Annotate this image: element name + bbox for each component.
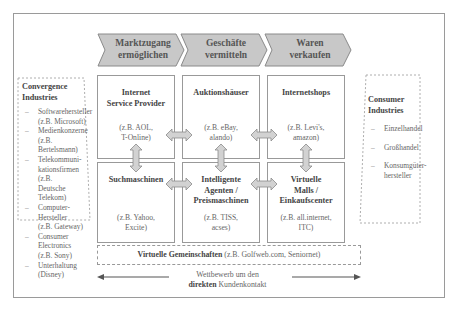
chevron-step-3: Warenverkaufen — [264, 33, 352, 67]
cell-title: Service Provider — [98, 99, 174, 110]
cell-title: Virtuelle — [268, 175, 344, 186]
cell-example: amazon) — [268, 133, 344, 143]
step-line2: verkaufen — [272, 49, 348, 61]
step-line1: Marktzugang — [105, 37, 181, 49]
cell-title: Einkaufscenter — [268, 196, 344, 207]
convergence-industries-panel: ConvergenceIndustries Softwarehersteller… — [22, 82, 90, 280]
competition-line1: Wettbewerb um den — [160, 270, 295, 280]
cell-suchmaschinen: Suchmaschinen (z.B. Yahoo,Excite) — [97, 162, 175, 243]
cell-example: (z.B. Yahoo, — [98, 213, 174, 223]
cell-virtuelle-malls: VirtuelleMalls /Einkaufscenter (z.B. all… — [267, 162, 345, 243]
cell-title: Preismaschinen — [183, 196, 259, 207]
double-arrow-horizontal-icon — [165, 177, 193, 191]
cell-example: (z.B. all.internet, — [268, 213, 344, 223]
cell-example: Excite) — [98, 223, 174, 233]
cell-example: ITC) — [268, 223, 344, 233]
double-arrow-vertical-icon — [129, 143, 143, 173]
double-arrow-horizontal-icon — [250, 128, 278, 142]
cell-title: Suchmaschinen — [98, 175, 174, 186]
convergence-item: Computer-Hersteller(z.B. Gateway) — [22, 203, 90, 232]
chevron-step-1: Marktzugangermöglichen — [97, 33, 185, 67]
consumer-industries-panel: ConsumerIndustries Einzelhandel Großhand… — [368, 95, 422, 180]
virtual-communities-examples: (z.B. Golfweb.com, Seniornet) — [222, 250, 320, 259]
double-arrow-horizontal-icon — [250, 177, 278, 191]
step-line2: ermöglichen — [105, 49, 181, 61]
cell-example: alando) — [183, 133, 259, 143]
virtual-communities-box: Virtuelle Gemeinschaften (z.B. Golfweb.c… — [97, 245, 361, 265]
step-line1: Waren — [272, 37, 348, 49]
cell-title: Internetshops — [268, 88, 344, 99]
cell-example: (z.B. eBay, — [183, 123, 259, 133]
cell-example: acses) — [183, 223, 259, 233]
double-arrow-horizontal-icon — [165, 128, 193, 142]
convergence-item: Telekommuni-kationsfirmen (z.B.Deutsche … — [22, 155, 90, 203]
competition-rest: Kundenkontakt — [216, 280, 266, 289]
cell-title: Intelligente — [183, 175, 259, 186]
cell-example: (z.B. Levi's, — [268, 123, 344, 133]
chevron-step-2: Geschäftevermitteln — [180, 33, 268, 67]
virtual-communities-title: Virtuelle Gemeinschaften — [138, 250, 223, 259]
cell-intelligente-agenten: IntelligenteAgenten /Preismaschinen (z.B… — [182, 162, 260, 243]
convergence-item: Unterhaltung(Disney) — [22, 261, 90, 280]
cell-example: (z.B. AOL, — [98, 123, 174, 133]
convergence-title: Industries — [22, 93, 90, 104]
consumer-item: Einzelhandel — [368, 124, 422, 134]
step-line1: Geschäfte — [188, 37, 264, 49]
convergence-title: Convergence — [22, 82, 90, 93]
convergence-item: Medienkonzerne (z.B.Bertelsmann) — [22, 126, 90, 155]
competition-bold: direkten — [188, 280, 216, 289]
cell-title: Agenten / — [183, 186, 259, 197]
cell-title: Malls / — [268, 186, 344, 197]
consumer-title: Industries — [368, 106, 422, 117]
convergence-item: Softwarehersteller(z.B. Microsoft) — [22, 107, 90, 126]
step-line2: vermitteln — [188, 49, 264, 61]
double-arrow-vertical-icon — [299, 143, 313, 173]
cell-title: Internet — [98, 88, 174, 99]
double-arrow-vertical-icon — [214, 143, 228, 173]
convergence-item: ConsumerElectronics(z.B. Sony) — [22, 232, 90, 261]
consumer-item: Konsumgüter-hersteller — [368, 161, 422, 180]
cell-example: T-Online) — [98, 133, 174, 143]
consumer-item: Großhandel — [368, 143, 422, 153]
cell-title: Auktionshäuser — [183, 88, 259, 99]
cell-example: (z.B. TISS, — [183, 213, 259, 223]
consumer-title: Consumer — [368, 95, 422, 106]
competition-label: Wettbewerb um den direkten Kundenkontakt — [160, 270, 295, 290]
